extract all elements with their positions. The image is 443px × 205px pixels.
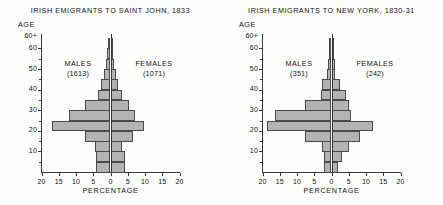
x-axis-tick xyxy=(59,173,60,176)
pyramid-bar xyxy=(332,141,350,152)
pyramid-bar xyxy=(111,79,119,90)
pyramid-bar xyxy=(332,90,347,101)
pyramid-bar xyxy=(332,79,341,90)
males-count: (351) xyxy=(273,69,325,79)
x-axis-tick xyxy=(93,173,94,176)
y-axis-tick-minor xyxy=(260,121,262,122)
y-axis-label: 50 xyxy=(5,65,37,72)
males-label: MALES xyxy=(286,59,313,68)
pyramid-bar xyxy=(52,121,111,132)
x-axis-tick xyxy=(111,173,112,176)
x-axis-title: PERCENTAGE xyxy=(221,186,442,195)
pyramid-bar xyxy=(332,151,343,162)
pyramid-bar xyxy=(322,79,332,90)
pyramid-bar xyxy=(305,100,332,111)
pyramid-bar xyxy=(275,110,331,121)
y-axis-tick xyxy=(38,48,41,49)
y-axis-tick-minor xyxy=(260,162,262,163)
males-count: (1613) xyxy=(52,69,104,79)
y-axis-label: 30 xyxy=(5,106,37,113)
females-legend: FEMALES (1071) xyxy=(128,59,180,78)
females-label: FEMALES xyxy=(356,59,393,68)
pyramid-bar xyxy=(332,110,352,121)
y-axis-tick-minor xyxy=(39,141,41,142)
females-label: FEMALES xyxy=(135,59,172,68)
pyramid-bar xyxy=(96,162,110,173)
y-axis-tick xyxy=(259,48,262,49)
x-axis-tick xyxy=(349,173,350,176)
y-axis-tick-minor xyxy=(260,79,262,80)
pyramid-bar xyxy=(321,90,332,101)
chart-panel-saint-john: IRISH EMIGRANTS TO SAINT JOHN, 1833 AGE … xyxy=(0,0,221,205)
y-axis-tick-minor xyxy=(260,59,262,60)
chart-title: IRISH EMIGRANTS TO SAINT JOHN, 1833 xyxy=(0,6,221,15)
x-axis-tick xyxy=(145,173,146,176)
y-axis-title: AGE xyxy=(18,20,35,29)
x-axis-tick xyxy=(383,173,384,176)
y-axis-tick xyxy=(259,131,262,132)
pyramid-bar xyxy=(95,141,110,152)
pyramid-bar xyxy=(85,100,111,111)
x-axis-tick xyxy=(76,173,77,176)
y-axis-label: 40 xyxy=(5,85,37,92)
y-axis-label: 60 xyxy=(226,44,258,51)
y-axis-tick-minor xyxy=(260,100,262,101)
y-axis-tick-minor xyxy=(39,162,41,163)
pyramid-bar xyxy=(111,100,130,111)
y-axis-tick-minor xyxy=(39,59,41,60)
zero-line xyxy=(332,34,333,172)
y-axis-label: 20 xyxy=(5,126,37,133)
pyramid-bar xyxy=(111,110,135,121)
pyramid-bar xyxy=(98,90,110,101)
y-axis-line xyxy=(262,34,263,173)
pyramid-bar xyxy=(111,151,125,162)
pyramid-bar xyxy=(267,121,332,132)
x-axis-tick xyxy=(401,173,402,176)
x-axis-tick xyxy=(314,173,315,176)
y-axis-label: 60 xyxy=(5,44,37,51)
pyramid-bar xyxy=(324,151,332,162)
y-axis-tick xyxy=(38,69,41,70)
pyramid-bar xyxy=(332,100,350,111)
y-axis-label: 40 xyxy=(226,85,258,92)
pyramid-bar xyxy=(322,141,332,152)
x-axis-tick xyxy=(162,173,163,176)
y-axis-tick xyxy=(259,69,262,70)
x-axis-label: 20 xyxy=(168,178,192,185)
zero-line xyxy=(111,34,112,172)
y-axis-title: AGE xyxy=(239,20,256,29)
x-axis-title: PERCENTAGE xyxy=(0,186,221,195)
x-axis-tick xyxy=(280,173,281,176)
y-axis-tick-minor xyxy=(39,100,41,101)
males-legend: MALES (1613) xyxy=(52,59,104,78)
y-axis-label: 10 xyxy=(226,147,258,154)
x-axis-tick xyxy=(297,173,298,176)
y-axis-tick xyxy=(259,90,262,91)
y-axis-tick xyxy=(38,90,41,91)
females-count: (242) xyxy=(349,69,401,79)
y-axis-line xyxy=(41,34,42,173)
y-axis-label: 60+ xyxy=(5,32,37,39)
pyramid-bar xyxy=(96,151,110,162)
y-axis-tick-minor xyxy=(39,79,41,80)
pyramid-bar xyxy=(111,141,122,152)
y-axis-tick xyxy=(259,151,262,152)
y-axis-tick-minor xyxy=(39,121,41,122)
pyramid-bar xyxy=(332,131,361,142)
y-axis-tick xyxy=(38,131,41,132)
x-axis-tick xyxy=(263,173,264,176)
y-axis-tick xyxy=(259,110,262,111)
pyramid-bar xyxy=(305,131,332,142)
males-label: MALES xyxy=(65,59,92,68)
y-axis-label: 30 xyxy=(226,106,258,113)
x-axis-tick xyxy=(366,173,367,176)
x-axis-tick xyxy=(180,173,181,176)
y-axis-tick-minor xyxy=(260,141,262,142)
y-axis-tick xyxy=(38,151,41,152)
females-legend: FEMALES (242) xyxy=(349,59,401,78)
pyramid-bar xyxy=(69,110,110,121)
y-axis-label: 20 xyxy=(226,126,258,133)
pyramid-bar xyxy=(111,90,122,101)
pyramid-bar xyxy=(111,162,126,173)
females-count: (1071) xyxy=(128,69,180,79)
